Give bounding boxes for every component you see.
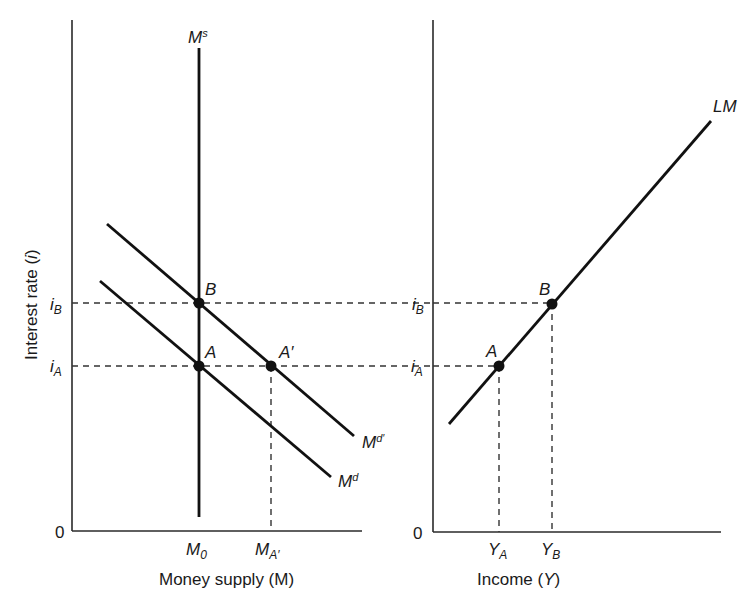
yb-tick: YB xyxy=(541,540,560,562)
money-demand-label: Md xyxy=(338,471,359,491)
point-a-right-label: A xyxy=(485,342,497,361)
point-b-left-label: B xyxy=(205,280,216,299)
right-panel-lm-curve: A B LM iB iA 0 YA YB Income (Y) xyxy=(411,20,737,589)
ia-tick-right: iA xyxy=(411,357,423,379)
left-panel-money-market: B A A′ Ms Md′ Md iB iA 0 M0 MA′ Money su… xyxy=(22,20,433,589)
money-demand-shifted-curve xyxy=(107,224,354,436)
money-demand-curve xyxy=(100,281,331,477)
ya-tick: YA xyxy=(488,540,507,562)
ib-tick-left: iB xyxy=(50,295,62,317)
money-supply-axis-title: Money supply (M) xyxy=(159,570,294,589)
money-supply-label: Ms xyxy=(188,27,208,47)
point-b-right-label: B xyxy=(539,280,550,299)
point-a-left-label: A xyxy=(204,343,216,362)
point-a-prime-label: A′ xyxy=(278,343,294,362)
lm-curve xyxy=(449,121,711,424)
interest-rate-axis-title: Interest rate (i) xyxy=(22,249,41,360)
point-a-left xyxy=(194,361,205,372)
point-b-right xyxy=(547,299,558,310)
money-demand-shifted-label: Md′ xyxy=(362,432,385,452)
point-a-prime xyxy=(266,361,277,372)
m0-tick: M0 xyxy=(186,540,207,562)
ib-tick-right: iB xyxy=(412,295,424,317)
income-axis-title: Income (Y) xyxy=(477,570,560,589)
money-market-lm-diagram: B A A′ Ms Md′ Md iB iA 0 M0 MA′ Money su… xyxy=(0,0,748,605)
lm-label: LM xyxy=(713,97,737,116)
right-origin-label: 0 xyxy=(413,524,422,543)
point-b-left xyxy=(194,298,205,309)
ia-tick-left: iA xyxy=(50,357,62,379)
point-a-right xyxy=(494,361,505,372)
ma-prime-tick: MA′ xyxy=(255,540,280,562)
left-origin-label: 0 xyxy=(55,523,64,542)
